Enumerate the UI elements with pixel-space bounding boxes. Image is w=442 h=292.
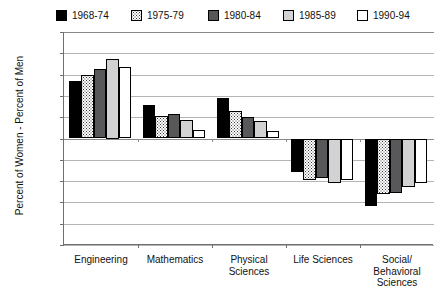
- y-tick-mark: [60, 160, 64, 161]
- gridline--10: [64, 245, 434, 246]
- bar-Life Sciences-1980-84: [316, 139, 329, 178]
- bar-Physical-Sciences-1985-89: [254, 121, 267, 138]
- bar-Life Sciences-1985-89: [328, 139, 341, 184]
- bar-Mathematics-1975-79: [155, 116, 168, 138]
- x-tick-mark: [212, 244, 213, 248]
- bar-Life Sciences-1990-94: [341, 139, 354, 181]
- zero-line-tick: [212, 139, 213, 142]
- legend-item-1975-79: 1975-79: [131, 10, 184, 21]
- legend-label: 1980-84: [224, 10, 261, 21]
- x-tick-mark: [360, 244, 361, 248]
- bar-Social/-Behavioral-Sciences-1968-74: [365, 139, 378, 206]
- gridline--8: [64, 224, 434, 225]
- y-tick-mark: [60, 181, 64, 182]
- legend-item-1985-89: 1985-89: [283, 10, 336, 21]
- plot-area: 1086420-2-4-6-8-10EngineeringMathematics…: [63, 32, 433, 245]
- legend-item-1980-84: 1980-84: [208, 10, 261, 21]
- bar-Engineering-1968-74: [69, 81, 82, 139]
- bar-Life Sciences-1968-74: [291, 139, 304, 172]
- chart-legend: 1968-741975-791980-841985-891990-94: [0, 8, 442, 26]
- legend-label: 1990-94: [373, 10, 410, 21]
- bar-Social/-Behavioral-Sciences-1990-94: [415, 139, 428, 184]
- legend-label: 1985-89: [299, 10, 336, 21]
- zero-line-tick: [138, 139, 139, 142]
- bar-Engineering-1975-79: [81, 75, 94, 139]
- legend-swatch-icon: [131, 10, 142, 21]
- zero-line-tick: [286, 139, 287, 142]
- gridline-10: [64, 32, 434, 33]
- y-tick-mark: [60, 202, 64, 203]
- y-axis-title: Percent of Women - Percent of Men: [14, 21, 25, 251]
- bar-Physical-Sciences-1990-94: [267, 131, 280, 138]
- bar-Physical-Sciences-1975-79: [229, 111, 242, 139]
- bar-Social/-Behavioral-Sciences-1980-84: [390, 139, 403, 193]
- legend-item-1990-94: 1990-94: [357, 10, 410, 21]
- y-tick-mark: [60, 245, 64, 246]
- x-tick-mark: [286, 244, 287, 248]
- bar-Physical-Sciences-1980-84: [242, 117, 255, 138]
- x-axis-category-label: Social/ Behavioral Sciences: [354, 254, 440, 289]
- legend-swatch-icon: [56, 10, 67, 21]
- bar-Life Sciences-1975-79: [303, 139, 316, 181]
- legend-swatch-icon: [357, 10, 368, 21]
- bar-Mathematics-1985-89: [180, 120, 193, 138]
- y-tick-mark: [60, 32, 64, 33]
- y-tick-mark: [60, 139, 64, 140]
- y-tick-mark: [60, 117, 64, 118]
- y-tick-mark: [60, 96, 64, 97]
- legend-label: 1968-74: [72, 10, 109, 21]
- bar-Engineering-1990-94: [119, 67, 132, 138]
- bar-Mathematics-1968-74: [143, 105, 156, 138]
- bar-Mathematics-1990-94: [193, 130, 206, 139]
- zero-line-tick: [360, 139, 361, 142]
- bar-Engineering-1985-89: [106, 59, 119, 139]
- legend-label: 1975-79: [147, 10, 184, 21]
- gridline-8: [64, 53, 434, 54]
- bar-Social/-Behavioral-Sciences-1975-79: [377, 139, 390, 194]
- x-tick-mark: [138, 244, 139, 248]
- y-tick-mark: [60, 53, 64, 54]
- bar-Physical-Sciences-1968-74: [217, 98, 230, 138]
- legend-swatch-icon: [208, 10, 219, 21]
- legend-swatch-icon: [283, 10, 294, 21]
- bar-Mathematics-1980-84: [168, 114, 181, 138]
- gridline--6: [64, 202, 434, 203]
- legend-item-1968-74: 1968-74: [56, 10, 109, 21]
- y-tick-mark: [60, 224, 64, 225]
- chart-figure: 1968-741975-791980-841985-891990-94 Perc…: [0, 0, 442, 292]
- bar-Social/-Behavioral-Sciences-1985-89: [402, 139, 415, 188]
- bar-Engineering-1980-84: [94, 69, 107, 138]
- y-tick-mark: [60, 75, 64, 76]
